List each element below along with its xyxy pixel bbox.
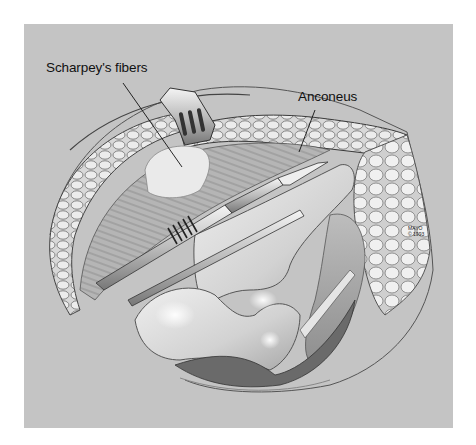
copyright-mark: MAYO © 1993 [408, 226, 424, 237]
bone-highlight-1 [249, 290, 277, 310]
scharpeys-fibers-region [145, 146, 209, 198]
label-anconeus: Anconeus [298, 89, 357, 104]
bone-highlight-3 [155, 301, 195, 329]
copyright-line-2: © 1993 [408, 232, 424, 238]
bone-highlight-2 [260, 331, 280, 349]
label-scharpeys-fibers: Scharpey's fibers [46, 60, 147, 75]
